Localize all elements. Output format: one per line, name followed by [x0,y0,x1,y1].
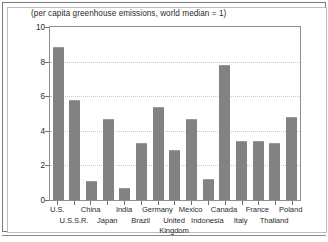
bar-series [50,27,300,200]
y-axis-tick-label: 6 [25,92,45,101]
bar [103,119,114,200]
x-axis-category-label: U.S. [50,205,65,214]
bar [286,117,297,200]
bar [136,143,147,200]
x-axis-category-label: Italy [234,216,248,225]
y-axis-tick-label: 8 [25,57,45,66]
y-axis-tick-label: 10 [25,23,45,32]
x-axis-category-label: U.S.S.R. [59,216,88,225]
x-axis-category-label: France [246,205,269,214]
y-axis-tick-mark [45,131,49,132]
figure-container: (per capita greenhouse emissions, world … [0,0,328,242]
x-axis-category-label: Kingdom [159,226,189,235]
bar [69,100,80,200]
x-axis-category-label: India [116,205,132,214]
bar [119,188,130,200]
bar [169,150,180,200]
y-axis-tick-label: 2 [25,161,45,170]
x-axis-category-label: Brazil [131,216,150,225]
bar [253,141,264,200]
x-axis-category-label: United [163,216,185,225]
bottom-divider [2,235,326,236]
x-axis-category-label: Thailand [260,216,289,225]
x-axis-category-label: Indonesia [191,216,223,225]
y-axis-tick-mark [45,165,49,166]
x-axis-category-label: China [81,205,101,214]
bar [219,65,230,200]
bar [153,107,164,200]
x-axis-category-label: Poland [279,205,302,214]
y-axis-tick-mark [45,27,49,28]
y-axis-tick-mark [45,96,49,97]
y-axis-tick-label: 0 [25,196,45,205]
plot-area [49,26,301,201]
bar [86,181,97,200]
bar [269,143,280,200]
y-axis-tick-mark [45,62,49,63]
bar [203,179,214,200]
chart-subtitle: (per capita greenhouse emissions, world … [31,9,226,18]
bar [53,47,64,200]
x-axis-category-label: Japan [97,216,117,225]
x-axis-category-label: Mexico [179,205,203,214]
x-axis-category-label: Canada [211,205,237,214]
bar [236,141,247,200]
x-axis-category-label: Germany [142,205,173,214]
bar [186,119,197,200]
y-axis-tick-label: 4 [25,126,45,135]
x-axis-labels: U.S.ChinaIndiaGermanyMexicoCanadaFranceP… [49,205,301,239]
